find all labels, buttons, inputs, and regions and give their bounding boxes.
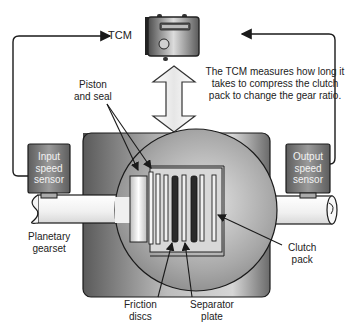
callout-text-line: Planetary	[28, 231, 70, 243]
callout-text-line: pack	[288, 254, 316, 266]
callout-clutch-pack: Clutch pack	[288, 242, 316, 266]
tcm-clutch-double-arrow	[153, 66, 195, 132]
output-speed-sensor-label: Output speed sensor	[286, 151, 330, 186]
callout-text-line: and seal	[74, 91, 112, 103]
callout-text-line: plate	[190, 311, 234, 323]
callout-text-line: discs	[124, 311, 157, 323]
callout-text-line: Separator	[190, 299, 234, 311]
sensor-text-line: speed	[27, 163, 71, 175]
callout-text-line: Piston	[74, 79, 112, 91]
callout-piston-and-seal: Piston and seal	[74, 79, 112, 103]
sensor-text-line: Input	[27, 151, 71, 163]
output-shaft	[268, 196, 337, 224]
input-speed-sensor-label: Input speed sensor	[27, 151, 71, 186]
callout-planetary-gearset: Planetary gearset	[28, 231, 70, 255]
clutch-pack	[130, 166, 224, 256]
callout-text-line: Friction	[124, 299, 157, 311]
callout-friction-discs: Friction discs	[124, 299, 157, 323]
sensor-text-line: sensor	[27, 174, 71, 186]
callout-separator-plate: Separator plate	[190, 299, 234, 323]
callout-text-line: gearset	[28, 243, 70, 255]
tcm-description-note: The TCM measures how long it takes to co…	[205, 66, 345, 102]
sensor-text-line: speed	[286, 163, 330, 175]
sensor-text-line: sensor	[286, 174, 330, 186]
callout-text-line: Clutch	[288, 242, 316, 254]
tcm-label: TCM	[108, 29, 132, 41]
sensor-text-line: Output	[286, 151, 330, 163]
tcm-module-icon	[145, 14, 199, 61]
